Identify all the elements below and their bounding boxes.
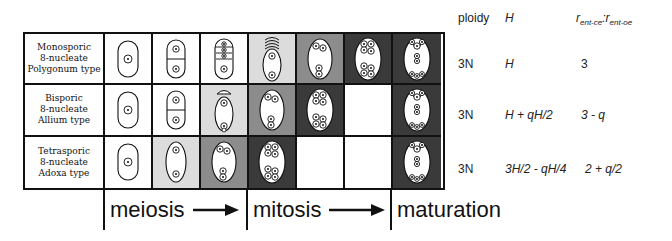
embryo-sac-type-label: Monosporic8-nucleatePolygonum type — [25, 34, 105, 85]
embryo-sac-icon — [402, 36, 432, 82]
embryo-sac-type-label: Bisporic8-nucleateAllium type — [25, 85, 105, 136]
ratio-sub2: ent-oe — [610, 18, 633, 27]
embryo-sac-stage-cell — [393, 34, 441, 85]
embryo-sac-type-label: Tetrasporic8-nucleateAdoxa type — [25, 137, 105, 188]
label-line: 8-nucleate — [38, 157, 90, 168]
embryo-sac-stage-cell — [105, 137, 153, 188]
embryo-sac-icon — [212, 87, 236, 133]
row3-ratio: 2 + q/2 — [585, 162, 622, 176]
header-ploidy: ploidy — [458, 11, 489, 25]
embryo-sac-stage-cell — [105, 34, 153, 85]
label-line: Monosporic — [27, 42, 100, 53]
phase-label: mitosis — [253, 188, 321, 232]
embryo-sac-stage-cell — [105, 85, 153, 136]
empty-stage-cell — [297, 137, 345, 188]
row2-ratio: 3 - q — [581, 108, 605, 122]
embryo-sac-stage-cell — [201, 85, 249, 136]
embryo-sac-icon — [306, 37, 334, 81]
embryo-sac-icon — [353, 36, 383, 82]
empty-stage-cell — [345, 85, 393, 136]
row1-ratio: 3 — [581, 57, 588, 71]
label-line: Tetrasporic — [38, 146, 90, 157]
label-line: Adoxa type — [38, 168, 90, 179]
embryo-sac-stage-cell — [249, 34, 297, 85]
phase-mitosis: mitosis — [246, 190, 390, 230]
row3-ploidy: 3N — [458, 162, 473, 176]
row3-h: 3H/2 - qH/4 — [505, 162, 566, 176]
arrow-right-icon — [193, 204, 239, 216]
embryo-sac-icon — [115, 142, 141, 182]
embryo-sac-icon — [257, 139, 287, 185]
row1-h: H — [505, 57, 514, 71]
embryo-sac-icon — [258, 88, 286, 132]
row1-ploidy: 3N — [458, 57, 473, 71]
phase-label: meiosis — [110, 188, 185, 232]
embryo-sac-stage-cell — [249, 85, 297, 136]
label-line: Bisporic — [38, 93, 90, 104]
embryo-sac-icon — [402, 139, 432, 185]
embryo-sac-icon — [212, 37, 236, 81]
row2-ploidy: 3N — [458, 108, 473, 122]
ratio-sub1: ent-ce — [580, 18, 602, 27]
embryo-sac-icon — [210, 140, 238, 184]
label-line: Polygonum type — [27, 64, 100, 75]
embryo-sac-stage-cell — [249, 137, 297, 188]
embryo-sac-stage-cell — [153, 137, 201, 188]
arrow-right-icon — [329, 204, 385, 216]
label-line: 8-nucleate — [38, 104, 90, 115]
embryo-sac-stage-cell — [393, 137, 441, 188]
phase-meiosis: meiosis — [103, 190, 246, 230]
header-h: H — [505, 11, 514, 25]
embryo-sac-stage-cell — [297, 85, 345, 136]
embryo-sac-stage-cell — [393, 85, 441, 136]
embryo-sac-icon — [260, 36, 284, 82]
embryo-sac-stage-cell — [201, 34, 249, 85]
header-ratio: rent-ce:rent-oe — [576, 11, 632, 27]
empty-stage-cell — [345, 137, 393, 188]
embryo-sac-stage-cell — [153, 85, 201, 136]
embryo-sac-icon — [402, 87, 432, 133]
label-line: Allium type — [38, 115, 90, 126]
ploidy-table: ploidy H rent-ce:rent-oe 3N H 3 3N H + q… — [455, 0, 672, 200]
embryo-sac-stage-cell — [201, 137, 249, 188]
embryo-sac-icon — [115, 39, 141, 79]
embryo-sac-icon — [115, 90, 141, 130]
embryo-sac-stage-cell — [153, 34, 201, 85]
embryo-sac-stage-cell — [345, 34, 393, 85]
label-line: 8-nucleate — [27, 53, 100, 64]
row2-h: H + qH/2 — [505, 108, 553, 122]
embryo-sac-icon — [164, 140, 188, 184]
embryo-sac-icon — [164, 89, 188, 131]
embryo-sac-grid: Monosporic8-nucleatePolygonum typeBispor… — [23, 32, 445, 190]
embryo-sac-icon — [164, 38, 188, 80]
embryo-sac-stage-cell — [297, 34, 345, 85]
embryo-sac-icon — [305, 87, 335, 133]
